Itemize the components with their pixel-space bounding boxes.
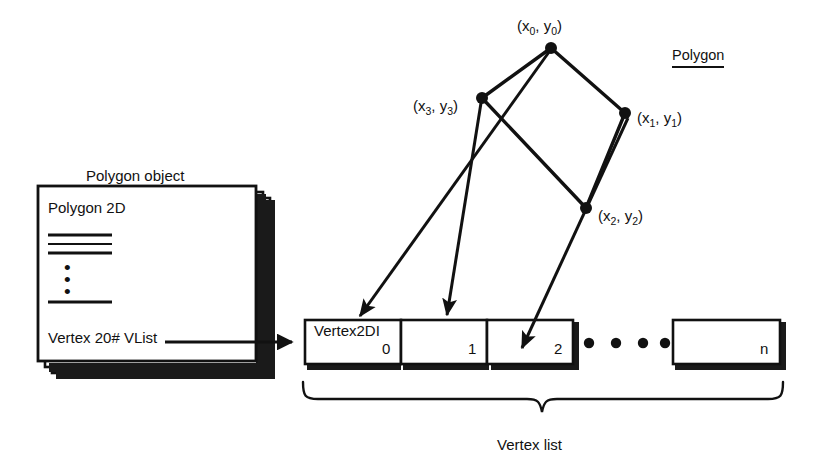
array-continuation-dots <box>584 338 670 348</box>
vertex-dot-v2 <box>580 202 592 214</box>
polygon-caption: Polygon <box>672 48 724 68</box>
object-box-ellipsis-icon: ••• <box>64 262 71 297</box>
vertex-label-v1: (x1, y1) <box>637 110 682 127</box>
vertex-dot-v0 <box>545 42 557 54</box>
vertex-field-name: Vertex 20# VList <box>48 330 157 347</box>
vertex-label-v0: (x0, y0) <box>517 18 562 35</box>
vertex-label-v2: (x2, y2) <box>598 208 643 225</box>
array-cell-index-2: 2 <box>554 341 562 358</box>
diagram-canvas: Polygon object Polygon 2D ••• Vertex 20#… <box>0 0 822 473</box>
polygon-object-title: Polygon object <box>86 168 184 185</box>
array-cell-index-n: n <box>760 341 768 358</box>
diagram-vector-layer <box>0 0 822 473</box>
array-cell-index-1: 1 <box>468 341 476 358</box>
vertex-dot-v1 <box>619 107 631 119</box>
array-cell-type-label: Vertex2DI <box>314 323 380 340</box>
polygon-shape-edges <box>482 48 625 208</box>
vertex-list-brace <box>303 382 783 412</box>
vertex-dot-v3 <box>476 92 488 104</box>
polygon-vertex-dots <box>476 42 631 214</box>
vertex-list-caption: Vertex list <box>497 437 562 454</box>
vertex-label-v3: (x3, y3) <box>413 98 458 115</box>
array-cell-index-0: 0 <box>382 341 390 358</box>
object-class-name: Polygon 2D <box>48 200 126 217</box>
